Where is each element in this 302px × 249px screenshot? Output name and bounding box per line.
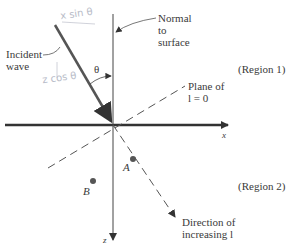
theta-arc <box>90 76 111 84</box>
plane-label-line2: l = 0 <box>188 92 224 104</box>
point-a <box>130 156 136 162</box>
z-axis-label: z <box>103 234 107 246</box>
incident-label-line1: Incident <box>6 48 42 60</box>
plane-l-zero <box>48 86 185 168</box>
plane-label-line1: Plane of <box>188 80 224 92</box>
normal-label-line3: surface <box>158 36 192 48</box>
normal-label-line2: to <box>158 24 192 36</box>
point-a-label: A <box>123 161 130 173</box>
direction-label: Direction of increasing l <box>182 216 235 240</box>
direction-label-line2: increasing l <box>182 228 235 240</box>
x-axis-label: x <box>222 129 226 141</box>
region-1-label: (Region 1) <box>238 63 285 75</box>
incident-wave-label: Incident wave <box>6 48 42 72</box>
point-b-label: B <box>83 185 90 197</box>
plane-label: Plane of l = 0 <box>188 80 224 104</box>
theta-label: θ <box>94 63 99 75</box>
diagram-canvas <box>0 0 302 249</box>
point-b <box>90 178 96 184</box>
region-2-label: (Region 2) <box>238 180 285 192</box>
incident-label-line2: wave <box>6 60 42 72</box>
normal-to-surface-label: Normal to surface <box>158 12 192 48</box>
normal-label-line1: Normal <box>158 12 192 24</box>
direction-label-line1: Direction of <box>182 216 235 228</box>
